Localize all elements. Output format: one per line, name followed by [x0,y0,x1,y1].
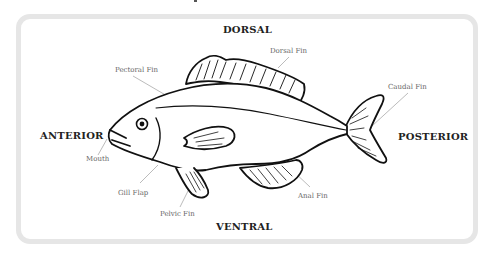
direction-ventral: VENTRAL [216,221,272,232]
label-gill-flap: Gill Flap [118,189,148,197]
label-pectoral-fin: Pectoral Fin [115,66,158,74]
label-dorsal-fin: Dorsal Fin [270,47,307,55]
direction-posterior: POSTERIOR [398,131,468,142]
label-anal-fin: Anal Fin [298,192,328,200]
label-caudal-fin: Caudal Fin [388,83,427,91]
fish-illustration [0,0,486,253]
pelvic-fin-shape [176,168,208,197]
gill-flap-leader [140,165,158,183]
label-pelvic-fin: Pelvic Fin [160,210,195,218]
direction-dorsal: DORSAL [223,24,272,35]
label-mouth: Mouth [86,155,109,163]
eye-pupil [140,122,145,127]
caudal-fin-shape [345,95,386,163]
mouth-leader [98,139,107,155]
dorsal-fin-leader [278,57,289,68]
direction-anterior: ANTERIOR [40,130,104,141]
